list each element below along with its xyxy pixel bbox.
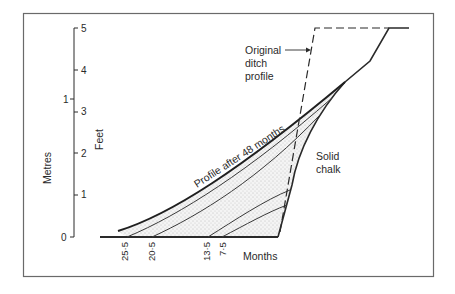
month-tick-labels: 25·5 20·5 13·5 7·5	[119, 242, 228, 261]
arrowhead-icon	[306, 48, 311, 53]
month-label-13-5: 13·5	[201, 242, 212, 261]
ditch-erosion-diagram: 1 2 3 4 5 0 1 Feet Metres Original ditch…	[0, 0, 455, 294]
feet-tick-3: 3	[81, 106, 87, 117]
feet-axis-title: Feet	[93, 129, 105, 150]
solid-chalk-label-line1: Solid	[316, 150, 340, 162]
metre-tick-0: 0	[61, 232, 67, 243]
month-label-7-5: 7·5	[217, 242, 228, 256]
original-label-line3: profile	[245, 70, 274, 82]
months-axis-title: Months	[243, 250, 277, 262]
feet-tick-1: 1	[81, 189, 87, 200]
feet-tick-2: 2	[81, 148, 87, 159]
feet-tick-labels: 1 2 3 4 5	[81, 23, 87, 200]
original-label-line1: Original	[245, 44, 281, 56]
original-label-line2: ditch	[245, 57, 267, 69]
solid-chalk-label-line2: chalk	[316, 163, 341, 175]
original-profile-annotation: Original ditch profile	[245, 44, 311, 82]
metres-axis-title: Metres	[41, 152, 53, 184]
metre-tick-labels: 0 1	[61, 94, 69, 243]
feet-tick-4: 4	[81, 65, 87, 76]
metre-tick-1: 1	[63, 94, 69, 105]
feet-tick-5: 5	[81, 23, 87, 34]
vertical-axis	[70, 28, 78, 237]
month-label-25-5: 25·5	[119, 242, 130, 261]
month-label-20-5: 20·5	[146, 242, 157, 261]
